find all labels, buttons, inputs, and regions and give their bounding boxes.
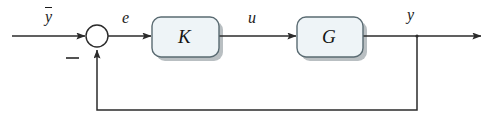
plant-block-label: G — [322, 27, 336, 46]
reference-signal-label: y — [45, 7, 52, 25]
controller-block-label: K — [178, 27, 191, 46]
output-takeoff-node — [415, 34, 418, 37]
error-signal-label: e — [122, 10, 129, 26]
summing-junction[interactable] — [86, 25, 108, 47]
reference-signal-text: y — [45, 7, 52, 25]
control-signal-label: u — [248, 10, 256, 26]
block-diagram-canvas: y e u y K G — [0, 0, 495, 122]
feedback-wire — [97, 36, 417, 110]
output-signal-label: y — [407, 7, 414, 23]
